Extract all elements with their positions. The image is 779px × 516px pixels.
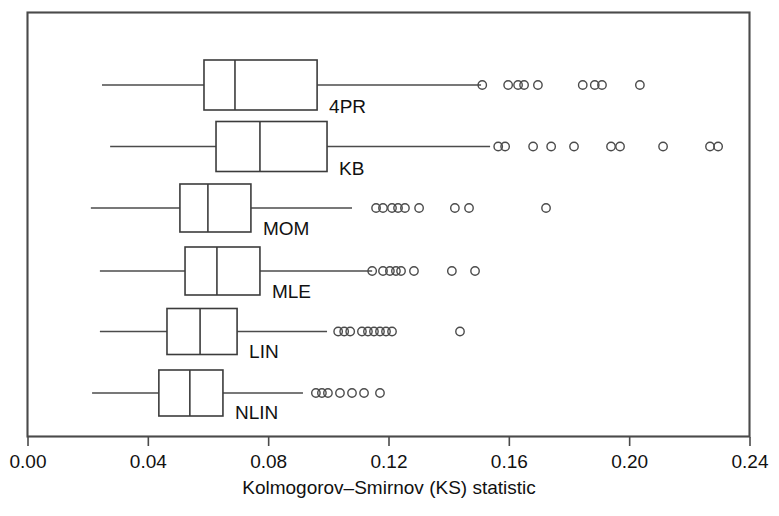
group-label-nlin: NLIN — [235, 402, 278, 423]
box-iqr — [159, 370, 223, 416]
x-tick-label-3: 0.12 — [371, 451, 408, 472]
box-iqr — [185, 247, 260, 295]
chart-figure: 0.000.040.080.120.160.200.24 4PRKBMOMMLE… — [0, 0, 779, 516]
x-tick-label-0: 0.00 — [10, 451, 47, 472]
boxplot-canvas: 0.000.040.080.120.160.200.24 4PRKBMOMMLE… — [0, 0, 779, 516]
box-iqr — [167, 309, 237, 355]
group-label-kb: KB — [339, 158, 364, 179]
x-tick-label-6: 0.24 — [732, 451, 769, 472]
box-iqr — [204, 60, 317, 110]
group-label-mle: MLE — [272, 281, 311, 302]
group-label-lin: LIN — [249, 341, 279, 362]
x-tick-label-4: 0.16 — [491, 451, 528, 472]
x-axis-title: Kolmogorov–Smirnov (KS) statistic — [242, 477, 536, 498]
box-iqr — [180, 184, 251, 232]
x-tick-label-1: 0.04 — [130, 451, 167, 472]
group-label-4pr: 4PR — [329, 96, 366, 117]
x-tick-label-2: 0.08 — [250, 451, 287, 472]
group-label-mom: MOM — [263, 218, 309, 239]
x-tick-label-5: 0.20 — [611, 451, 648, 472]
box-iqr — [216, 122, 327, 172]
